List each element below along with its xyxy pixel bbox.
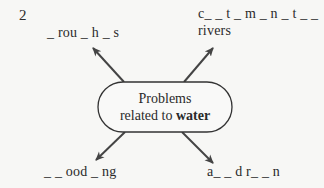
branch-top-right-line2: rivers	[198, 22, 318, 39]
branch-top-left: _ rou _ h _ s	[47, 25, 119, 41]
arrow-top-left	[93, 48, 124, 82]
center-label: Problems related to water	[98, 90, 232, 124]
arrow-top-right	[184, 48, 213, 82]
branch-top-right-line1: c_ _ t _ m _ n _ t _ _	[198, 5, 318, 22]
arrow-bottom-right	[182, 132, 213, 163]
branch-bottom-right: a_ _ d r_ _ n	[207, 164, 280, 180]
center-keyword: water	[176, 108, 210, 123]
branch-top-right: c_ _ t _ m _ n _ t _ _ rivers	[198, 5, 318, 39]
center-line1: Problems	[98, 90, 232, 107]
center-line2-prefix: related to	[120, 108, 176, 123]
branch-bottom-left: _ _ ood _ ng	[44, 164, 116, 180]
center-line2: related to water	[98, 107, 232, 124]
arrow-bottom-left	[96, 132, 125, 160]
